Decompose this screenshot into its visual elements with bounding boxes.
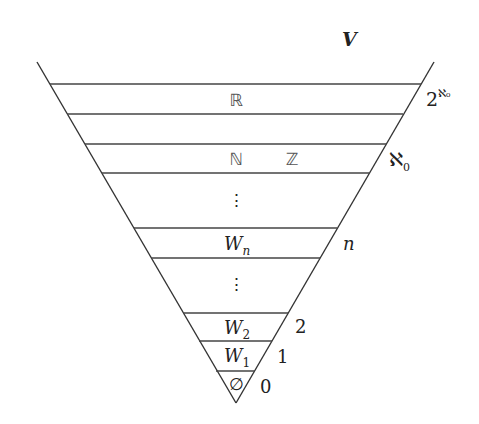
ellipsis-upper: ⋮ — [228, 190, 245, 210]
rank-n-label: n — [343, 233, 355, 254]
ellipsis-lower: ⋮ — [228, 274, 245, 294]
cumulative-hierarchy-diagram: V ℝ ℕ ℤ ⋮ Wn ⋮ W2 W1 ∅ 2ℵ₀ ℵ0 n 2 1 0 — [0, 0, 479, 424]
w2-label: W2 — [224, 317, 250, 342]
integers-symbol: ℤ — [286, 149, 299, 169]
naturals-symbol: ℕ — [229, 149, 243, 169]
diagram-title: V — [342, 28, 359, 50]
cone-left-edge — [37, 62, 236, 403]
cone-right-edge — [236, 62, 434, 403]
wn-label: Wn — [224, 233, 250, 258]
rank-0-label: 0 — [260, 376, 271, 397]
w1-label: W1 — [224, 345, 250, 370]
rank-1-label: 1 — [277, 346, 288, 367]
empty-set-symbol: ∅ — [229, 374, 244, 394]
rank-aleph0-label: ℵ0 — [389, 148, 410, 174]
rank-2-aleph0-label: 2ℵ₀ — [426, 87, 451, 110]
reals-symbol: ℝ — [229, 90, 243, 110]
rank-2-label: 2 — [295, 316, 306, 337]
